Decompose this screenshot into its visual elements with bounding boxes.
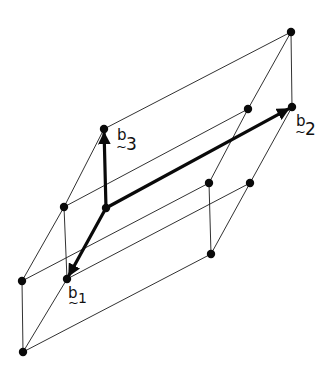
lattice-point <box>207 250 215 258</box>
label-b3-subscript: 3 <box>126 134 137 154</box>
vector-b3-arrow <box>104 133 106 208</box>
lattice-edge <box>23 279 67 352</box>
label-b1-subscript: 1 <box>78 290 87 306</box>
lattice-point <box>102 204 110 212</box>
label-b3: b ~ 3 <box>116 126 137 154</box>
lattice-point <box>205 179 213 187</box>
lattice-edge <box>209 183 211 254</box>
lattice-point <box>18 277 26 285</box>
lattice-point <box>100 125 108 133</box>
lattice-edge <box>104 32 291 129</box>
lattice-point <box>60 203 68 211</box>
label-b2: b ~ 2 <box>295 112 316 139</box>
lattice-point <box>287 28 295 36</box>
lattice-point <box>19 348 27 356</box>
lattice-edge <box>64 109 248 207</box>
lattice-edge <box>64 129 104 207</box>
lattice-point <box>63 275 71 283</box>
lattice-edge <box>209 109 248 183</box>
lattice-point <box>288 103 296 111</box>
lattice-diagram: b ~ 1 b ~ 2 b ~ 3 <box>0 0 336 367</box>
lattice-point <box>244 105 252 113</box>
lattice-nodes <box>18 28 296 356</box>
lattice-edge <box>22 281 23 352</box>
vector-b2-arrow <box>106 109 288 208</box>
lattice-point <box>246 179 254 187</box>
lattice-edge <box>23 254 211 352</box>
lattice-edge <box>291 32 292 107</box>
vector-b1-arrow <box>69 208 106 275</box>
basis-vectors <box>69 109 288 275</box>
label-b2-subscript: 2 <box>305 119 316 139</box>
label-b1: b ~ 1 <box>68 284 87 310</box>
lattice-edge <box>64 207 67 279</box>
lattice-edges <box>22 32 292 352</box>
